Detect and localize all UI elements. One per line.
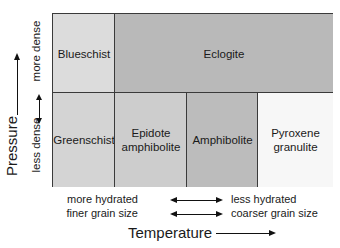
epidote-amphibolite-label-2: amphibolite [122, 140, 181, 154]
grid-divider-2 [186, 93, 187, 187]
finer-grain-label: finer grain size [66, 207, 138, 219]
coarser-grain-label: coarser grain size [231, 207, 318, 219]
cell-greenschist: Greenschist [53, 93, 115, 187]
hydration-arrow-right-icon [216, 197, 223, 203]
temperature-axis-label: Temperature [128, 224, 212, 241]
cell-amphibolite: Amphibolite [187, 93, 258, 187]
blueschist-label: Blueschist [58, 47, 110, 61]
more-hydrated-label: more hydrated [67, 193, 138, 205]
hydration-arrow [172, 200, 220, 201]
hydration-arrow-left-icon [170, 197, 177, 203]
cell-pyroxene-granulite: Pyroxene granulite [258, 93, 333, 187]
grain-arrow-right-icon [216, 211, 223, 217]
greenschist-label: Greenschist [53, 133, 114, 147]
amphibolite-label: Amphibolite [192, 133, 252, 147]
pyroxene-granulite-label-1: Pyroxene [271, 126, 320, 140]
pressure-axis-label: Pressure [3, 116, 21, 176]
density-arrow-up-icon [36, 94, 42, 100]
less-hydrated-label: less hydrated [231, 193, 296, 205]
pyroxene-granulite-label-2: granulite [273, 140, 317, 154]
density-arrow-down-icon [36, 118, 42, 124]
grid-divider-3 [257, 93, 258, 187]
grain-arrow-left-icon [170, 211, 177, 217]
cell-epidote-amphibolite: Epidote amphibolite [115, 93, 187, 187]
more-dense-label: more dense [30, 16, 44, 86]
temperature-arrowhead-icon [269, 230, 276, 236]
cell-blueschist: Blueschist [53, 14, 115, 93]
facies-grid: Blueschist Eclogite Greenschist Epidote … [52, 13, 333, 187]
grid-divider-horizontal [53, 92, 333, 93]
grain-size-arrow [172, 214, 220, 215]
eclogite-label: Eclogite [204, 47, 245, 61]
grid-divider-1 [114, 14, 115, 187]
temperature-arrow [216, 233, 271, 234]
pressure-arrow [17, 55, 18, 115]
epidote-amphibolite-label-1: Epidote [131, 126, 170, 140]
pressure-arrowhead-icon [14, 53, 20, 60]
cell-eclogite: Eclogite [115, 14, 333, 93]
